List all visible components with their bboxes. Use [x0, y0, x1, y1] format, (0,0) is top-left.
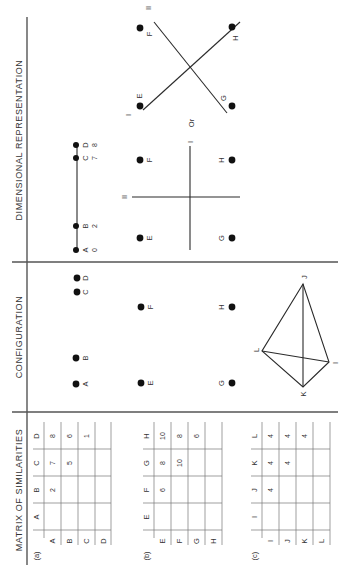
configuration-b: E F G H — [138, 304, 236, 387]
vertex-i-label: I — [331, 362, 340, 364]
matrix-a-row-header: C — [82, 538, 91, 544]
matrix-c-cell: 4 — [267, 461, 274, 465]
dim-h-label: H — [217, 157, 226, 162]
matrix-a-cell: 5 — [66, 461, 73, 465]
matrix-b-row-header: F — [175, 538, 184, 543]
point-a — [73, 381, 80, 388]
vertex-j-label: J — [300, 275, 309, 279]
point-d — [74, 275, 81, 282]
matrix-c-cell: 4 — [301, 434, 308, 438]
matrix-b-cell: 10 — [159, 432, 166, 440]
matrix-a-cell: 6 — [66, 434, 73, 438]
matrix-b-cell: 6 — [193, 434, 200, 438]
matrix-a-cell: 2 — [49, 488, 56, 492]
point-h — [229, 304, 236, 311]
row-label-b: (b) — [142, 551, 151, 561]
diag-e-label: E — [135, 93, 144, 98]
point-f-label: F — [146, 304, 155, 309]
matrix-b-cell: 8 — [176, 434, 183, 438]
matrix-b-col-header: H — [142, 433, 151, 438]
matrix-c-cell: 4 — [267, 434, 274, 438]
dimension-b-diagonal-axes: I II F H E G — [124, 6, 240, 116]
dim-c-label: C — [81, 155, 90, 161]
row-label-a: (a) — [32, 551, 41, 561]
point-a-label: A — [81, 381, 90, 386]
matrix-b-col-header: E — [142, 514, 151, 519]
matrix-b-col-header: F — [142, 487, 151, 492]
point-e — [138, 380, 145, 387]
dim-d-value: 8 — [91, 143, 98, 147]
matrix-a-row-header: A — [48, 538, 57, 543]
axis-ii-label: II — [120, 195, 129, 199]
matrix-c-row-header: L — [317, 539, 326, 543]
header-configuration: CONFIGURATION — [14, 296, 24, 379]
configuration-c-tetrahedron: J L I K — [252, 275, 340, 397]
matrix-c-row-header: I — [266, 540, 275, 542]
similarity-dimension-figure: MATRIX OF SIMILARITIES CONFIGURATION DIM… — [0, 0, 343, 570]
matrix-c-col-header: J — [250, 488, 259, 492]
matrix-c-row-header: K — [300, 538, 309, 543]
point-e-label: E — [146, 380, 155, 385]
matrix-b-row-header: E — [158, 538, 167, 543]
diag-axis-ii-label: II — [144, 6, 153, 10]
matrix-b-row-header: H — [209, 538, 218, 543]
diag-g-label: G — [219, 95, 228, 101]
matrix-a-col-header: A — [32, 514, 41, 519]
matrix-c-col-header: K — [250, 460, 259, 465]
dim-a-value: 0 — [91, 248, 98, 252]
dim-e-label: E — [145, 235, 154, 240]
matrix-a-row-header: B — [65, 538, 74, 543]
matrix-a-col-header: C — [32, 460, 41, 466]
point-c — [74, 289, 81, 296]
diag-f-label: F — [145, 31, 154, 36]
matrix-b-cell: 8 — [159, 461, 166, 465]
matrix-a-cell: 1 — [83, 434, 90, 438]
point-d-label: D — [81, 275, 90, 281]
matrix-c-cell: 4 — [284, 434, 291, 438]
dimension-a-line: A B C D 0 2 7 8 — [73, 142, 98, 253]
matrix-a-cell: 7 — [49, 461, 56, 465]
dim-g-label: G — [217, 235, 226, 241]
point-g-label: G — [217, 380, 226, 386]
matrix-c: I J K L I J K L 4 4 4 4 4 4 — [250, 422, 330, 545]
matrix-c-cell: 4 — [267, 488, 274, 492]
dim-f-label: F — [145, 157, 154, 162]
matrix-b-col-header: G — [142, 460, 151, 466]
point-f — [138, 304, 145, 311]
matrix-c-row-header: J — [283, 539, 292, 543]
vertex-k-label: K — [299, 391, 308, 396]
matrix-a-cell: 8 — [49, 434, 56, 438]
matrix-b-row-header: G — [192, 538, 201, 544]
configuration-a: A B C D — [73, 275, 90, 388]
matrix-a-col-header: B — [32, 487, 41, 492]
or-label: Or — [187, 118, 196, 127]
header-dimensional: DIMENSIONAL REPRESENTATION — [14, 60, 24, 221]
dim-d-label: D — [81, 142, 90, 148]
matrix-a-row-header: D — [99, 538, 108, 544]
matrix-a-col-header: D — [32, 433, 41, 439]
header-matrix: MATRIX OF SIMILARITIES — [14, 429, 24, 552]
diag-h-label: H — [231, 35, 240, 40]
point-h-label: H — [217, 304, 226, 309]
row-label-c: (c) — [250, 551, 259, 560]
point-b-label: B — [81, 355, 90, 360]
matrix-b-cell: 10 — [176, 459, 183, 467]
diag-axis-i-label: I — [124, 114, 133, 116]
matrix-b: E F G H E F G H 6 8 10 10 8 6 — [142, 422, 222, 545]
point-c-label: C — [81, 289, 90, 295]
matrix-a: A B C D A B C D 2 7 8 5 6 1 — [32, 422, 111, 545]
dim-b-label: B — [81, 223, 90, 228]
dim-c-value: 7 — [91, 156, 98, 160]
dimension-b-orthogonal-axes: I II F H E G — [120, 141, 240, 250]
matrix-c-cell: 4 — [284, 461, 291, 465]
point-g — [229, 380, 236, 387]
matrix-b-cell: 6 — [159, 488, 166, 492]
axis-i-label: I — [186, 141, 195, 143]
dim-b-value: 2 — [91, 224, 98, 228]
matrix-c-col-header: L — [250, 434, 259, 438]
matrix-c-col-header: I — [250, 516, 259, 518]
point-b — [73, 355, 80, 362]
vertex-l-label: L — [252, 348, 261, 352]
dim-a-label: A — [81, 247, 90, 252]
